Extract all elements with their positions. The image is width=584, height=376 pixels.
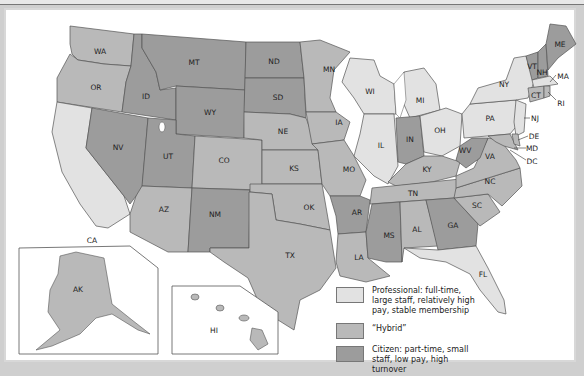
- legend-label-hybrid: “Hybrid”: [372, 324, 482, 334]
- label-NV: NV: [113, 143, 125, 152]
- label-FL: FL: [479, 270, 488, 279]
- label-MN: MN: [323, 65, 335, 74]
- state-WI[interactable]: [342, 58, 396, 114]
- state-AZ[interactable]: [130, 186, 192, 252]
- label-LA: LA: [354, 253, 364, 262]
- legend-swatch-hybrid: [336, 323, 364, 339]
- label-PA: PA: [485, 114, 495, 123]
- label-DC: DC: [526, 157, 537, 166]
- label-NE: NE: [278, 127, 289, 136]
- label-NC: NC: [485, 177, 496, 186]
- hawaii-island-kauai[interactable]: [191, 294, 199, 300]
- label-AK: AK: [73, 285, 84, 294]
- label-UT: UT: [163, 152, 173, 161]
- label-WV: WV: [459, 146, 472, 155]
- label-GA: GA: [448, 221, 460, 230]
- legend-item-professional: Professional: full-time, large staff, re…: [336, 286, 536, 316]
- label-MI: MI: [416, 96, 425, 105]
- state-MI[interactable]: [400, 68, 440, 118]
- label-SD: SD: [273, 93, 284, 102]
- label-CA: CA: [87, 236, 98, 245]
- hawaii-island-maui[interactable]: [239, 315, 249, 321]
- state-RI[interactable]: [544, 86, 550, 98]
- label-AL: AL: [412, 225, 422, 234]
- label-WA: WA: [94, 47, 107, 56]
- legend-swatch-citizen: [336, 346, 364, 362]
- state-IA[interactable]: [306, 112, 350, 144]
- label-TX: TX: [284, 251, 295, 260]
- legend-item-hybrid: “Hybrid”: [336, 322, 536, 339]
- label-ID: ID: [142, 92, 150, 101]
- label-NH: NH: [536, 68, 547, 77]
- label-AR: AR: [352, 208, 362, 217]
- legend: Professional: full-time, large staff, re…: [336, 286, 536, 376]
- legend-label-professional: Professional: full-time, large staff, re…: [372, 286, 482, 316]
- label-RI: RI: [557, 99, 564, 108]
- label-MA: MA: [557, 72, 569, 81]
- label-IA: IA: [335, 118, 343, 127]
- label-NY: NY: [499, 80, 510, 89]
- label-CT: CT: [531, 91, 541, 100]
- label-SC: SC: [472, 201, 482, 210]
- label-DE: DE: [529, 132, 540, 141]
- legend-label-citizen: Citizen: part-time, small staff, low pay…: [372, 345, 482, 375]
- state-AR[interactable]: [330, 196, 370, 234]
- label-MS: MS: [383, 231, 394, 240]
- label-HI: HI: [210, 326, 218, 335]
- label-CO: CO: [218, 156, 229, 165]
- lake-michigan: [394, 72, 406, 118]
- label-OH: OH: [434, 126, 446, 135]
- label-ND: ND: [268, 57, 280, 66]
- label-OR: OR: [90, 83, 101, 92]
- hawaii-island-oahu[interactable]: [216, 305, 224, 311]
- label-VA: VA: [485, 152, 496, 161]
- legend-item-citizen: Citizen: part-time, small staff, low pay…: [336, 345, 536, 375]
- label-WI: WI: [365, 87, 375, 96]
- label-AZ: AZ: [159, 205, 169, 214]
- label-MO: MO: [343, 165, 355, 174]
- state-MN[interactable]: [300, 40, 350, 112]
- label-IN: IN: [406, 135, 414, 144]
- label-WY: WY: [204, 108, 216, 117]
- legend-swatch-professional: [336, 287, 364, 303]
- label-KS: KS: [289, 164, 299, 173]
- label-OK: OK: [304, 203, 316, 212]
- salt-lake: [159, 122, 165, 132]
- label-KY: KY: [422, 165, 432, 174]
- label-NM: NM: [209, 210, 221, 219]
- label-ME: ME: [554, 40, 565, 49]
- label-MD: MD: [526, 144, 538, 153]
- label-MT: MT: [188, 58, 199, 67]
- label-TN: TN: [407, 189, 418, 198]
- state-NM[interactable]: [188, 188, 250, 252]
- label-IL: IL: [378, 141, 385, 150]
- label-NJ: NJ: [531, 114, 539, 123]
